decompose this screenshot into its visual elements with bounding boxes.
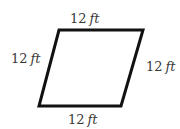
right-side-value: 12: [146, 59, 163, 74]
right-side-label: 12ft: [146, 60, 176, 73]
bottom-side-unit: ft: [88, 112, 98, 127]
top-side-value: 12: [70, 11, 87, 26]
bottom-side-value: 12: [68, 112, 85, 127]
top-side-unit: ft: [90, 11, 100, 26]
rhombus-diagram: 12ft 12ft 12ft 12ft: [0, 0, 180, 129]
bottom-side-label: 12ft: [68, 113, 98, 126]
left-side-value: 12: [11, 51, 28, 66]
left-side-unit: ft: [31, 51, 41, 66]
right-side-unit: ft: [166, 59, 176, 74]
top-side-label: 12ft: [70, 12, 100, 25]
left-side-label: 12ft: [11, 52, 41, 65]
rhombus-outline: [39, 30, 143, 106]
